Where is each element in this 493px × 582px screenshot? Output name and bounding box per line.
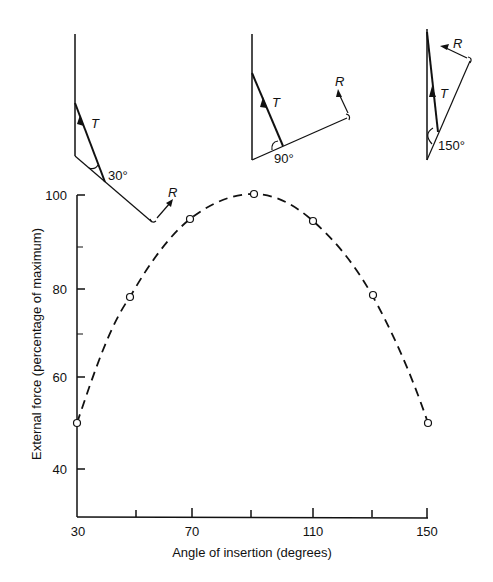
xtick-70: 70 [185, 524, 199, 539]
ytick-60: 60 [53, 370, 67, 385]
point-110 [310, 218, 317, 225]
diagram1-angle-label: 30° [108, 168, 128, 183]
axes [77, 195, 428, 518]
r-arrow-icon [336, 89, 342, 97]
diagram1-tension-label: T [91, 116, 100, 131]
diagram3-force-label: R [453, 36, 462, 51]
point-70 [187, 216, 194, 223]
xtick-30: 30 [71, 524, 85, 539]
data-markers [74, 191, 432, 427]
xtick-110: 110 [303, 524, 324, 539]
tension-arrow-icon [260, 97, 267, 108]
point-130 [370, 292, 377, 299]
x-axis-title: Angle of insertion (degrees) [172, 545, 332, 560]
diagram2-force-label: R [335, 74, 344, 89]
point-150 [425, 420, 432, 427]
diagram1-force-label: R [168, 185, 177, 200]
diagram3-tension-label: T [440, 86, 449, 101]
diagram-30-degrees [75, 34, 170, 222]
ytick-40: 40 [53, 462, 67, 477]
tension-arrow-icon [429, 86, 436, 97]
tension-arrow-icon [77, 115, 84, 126]
diagram2-angle-label: 90° [274, 151, 294, 166]
diagram3-angle-label: 150° [438, 138, 465, 153]
chart-figure: T 30° R T 90° R T 150° R [0, 0, 493, 582]
ytick-100: 100 [45, 188, 67, 203]
xtick-150: 150 [416, 524, 438, 539]
point-90 [251, 191, 258, 198]
diagram-90-degrees [252, 34, 350, 160]
diagram2-tension-label: T [272, 95, 281, 110]
data-curve [77, 194, 428, 423]
point-50 [127, 294, 134, 301]
ytick-80: 80 [53, 282, 67, 297]
point-30 [74, 420, 81, 427]
y-axis-title: External force (percentage of maximum) [29, 228, 44, 460]
